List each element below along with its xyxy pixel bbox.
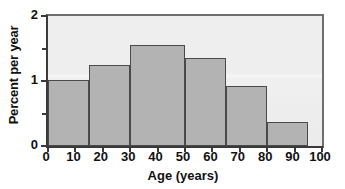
x-axis-tick-label: 20 <box>94 150 108 163</box>
y-axis-tick-mark <box>41 80 48 82</box>
histogram-bar <box>130 45 185 146</box>
x-axis-tick-label: 80 <box>258 150 272 163</box>
x-axis-tick-label: 50 <box>176 150 190 163</box>
x-axis-tick-label: 100 <box>309 150 331 163</box>
histogram-bar <box>48 80 89 146</box>
x-axis-tick-label: 30 <box>121 150 135 163</box>
y-axis-tick-label: 2 <box>24 8 38 21</box>
y-axis-title: Percent per year <box>2 0 24 150</box>
histogram-bar <box>226 86 267 146</box>
y-axis-tick-labels <box>24 0 42 189</box>
histogram-figure: Percent per year Age (years) 01201020304… <box>0 0 345 189</box>
x-axis-tick-label: 0 <box>42 150 49 163</box>
y-axis-tick-mark <box>41 15 48 17</box>
x-axis-tick-label: 60 <box>203 150 217 163</box>
y-axis-minor-tick-mark <box>42 48 48 50</box>
x-axis-tick-label: 10 <box>66 150 80 163</box>
x-axis-tick-label: 70 <box>231 150 245 163</box>
histogram-bar <box>185 58 226 146</box>
y-axis-minor-tick-mark <box>42 113 48 115</box>
x-axis-title: Age (years) <box>46 168 320 183</box>
plot-area <box>46 14 324 148</box>
histogram-bar <box>267 122 308 146</box>
x-axis-tick-label: 90 <box>285 150 299 163</box>
histogram-bar <box>89 65 130 146</box>
x-axis-tick-label: 40 <box>148 150 162 163</box>
y-axis-tick-label: 1 <box>24 73 38 86</box>
y-axis-tick-label: 0 <box>24 138 38 151</box>
